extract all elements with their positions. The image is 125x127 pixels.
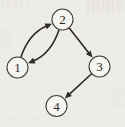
graph-edge-2-to-3 [69,28,89,53]
node-label: 1 [14,60,21,75]
graph-node-3: 3 [89,56,110,77]
directed-graph-figure: 1234 [0,0,125,127]
graph-node-1: 1 [7,57,28,78]
graph-node-4: 4 [46,96,67,117]
graph-node-2: 2 [52,9,73,30]
node-label: 4 [53,99,60,114]
node-label: 3 [96,59,103,74]
node-label: 2 [59,12,66,27]
graph-edge-1-to-2 [21,26,47,57]
graph-edge-2-to-1 [33,30,59,61]
scanned-figure-page: 1234 [0,0,125,127]
graph-edge-3-to-4 [69,74,92,95]
